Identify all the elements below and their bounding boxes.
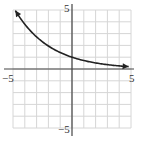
coordinate-graph (0, 0, 143, 143)
arrow-right-icon (122, 63, 128, 69)
x-max-label: 5 (129, 73, 135, 84)
x-min-label: −5 (2, 73, 14, 84)
y-max-label: 5 (64, 3, 70, 14)
y-min-label: −5 (58, 124, 70, 135)
